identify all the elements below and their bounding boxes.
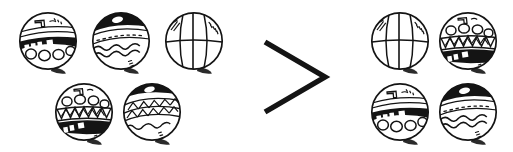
greater-than-symbol <box>265 42 325 112</box>
left-ball-1[interactable] <box>18 13 78 74</box>
comparison-scene <box>0 0 513 152</box>
left-ball-5[interactable] <box>122 81 182 145</box>
right-ball-1[interactable] <box>372 13 428 74</box>
right-ball-group <box>370 13 497 145</box>
right-ball-2[interactable] <box>439 13 497 74</box>
left-ball-3[interactable] <box>166 13 222 74</box>
left-ball-group <box>18 11 222 145</box>
scene-canvas <box>0 0 513 152</box>
left-ball-2[interactable] <box>92 11 150 74</box>
right-ball-3[interactable] <box>370 84 430 145</box>
left-ball-4[interactable] <box>55 84 113 145</box>
right-ball-4[interactable] <box>439 82 497 145</box>
